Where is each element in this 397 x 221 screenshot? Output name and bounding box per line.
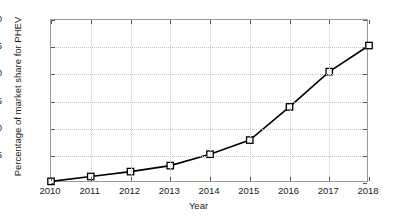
y-tick-mark — [51, 102, 55, 103]
x-tick-label: 2014 — [189, 186, 229, 196]
x-tick-mark — [131, 177, 132, 181]
y-tick-mark — [51, 156, 55, 157]
x-tick-mark-top — [250, 20, 251, 24]
x-tick-mark-top — [210, 20, 211, 24]
data-point-marker — [247, 137, 253, 143]
chart-figure: 51015202530 2010201120122013201420152016… — [0, 0, 397, 221]
x-tick-label: 2015 — [229, 186, 269, 196]
x-tick-label: 2018 — [348, 186, 388, 196]
data-point-marker — [286, 104, 292, 110]
data-line — [51, 46, 369, 182]
y-tick-mark-right — [363, 102, 367, 103]
y-tick-label: 15 — [0, 96, 2, 106]
x-tick-label: 2010 — [30, 186, 70, 196]
x-tick-mark — [51, 177, 52, 181]
x-tick-mark-top — [91, 20, 92, 24]
y-axis-title: Percentage of market share for PHEV — [12, 7, 23, 187]
y-tick-mark-right — [363, 47, 367, 48]
x-tick-label: 2011 — [70, 186, 110, 196]
y-tick-mark — [51, 47, 55, 48]
data-point-marker — [326, 68, 332, 74]
y-tick-mark — [51, 74, 55, 75]
x-tick-mark — [290, 177, 291, 181]
y-tick-label: 25 — [0, 41, 2, 51]
y-tick-label: 20 — [0, 68, 2, 78]
x-tick-mark — [170, 177, 171, 181]
x-tick-mark-top — [290, 20, 291, 24]
y-tick-mark-right — [363, 20, 367, 21]
x-tick-mark — [91, 177, 92, 181]
x-tick-mark — [329, 177, 330, 181]
data-point-marker — [127, 168, 133, 174]
data-point-marker — [167, 162, 173, 168]
x-tick-label: 2013 — [149, 186, 189, 196]
x-tick-mark-top — [329, 20, 330, 24]
y-tick-mark-right — [363, 74, 367, 75]
x-tick-mark-top — [369, 20, 370, 24]
x-tick-mark-top — [170, 20, 171, 24]
x-tick-label: 2016 — [269, 186, 309, 196]
y-tick-label: 5 — [0, 150, 2, 160]
y-tick-mark-right — [363, 183, 367, 184]
x-tick-mark — [369, 177, 370, 181]
y-tick-mark-right — [363, 129, 367, 130]
x-tick-mark-top — [131, 20, 132, 24]
x-tick-label: 2017 — [308, 186, 348, 196]
y-tick-label: 30 — [0, 14, 2, 24]
x-tick-label: 2012 — [110, 186, 150, 196]
x-tick-mark-top — [51, 20, 52, 24]
y-tick-mark — [51, 129, 55, 130]
series-layer — [51, 20, 369, 183]
plot-area — [50, 19, 368, 182]
x-axis-title: Year — [0, 200, 397, 211]
y-tick-mark-right — [363, 156, 367, 157]
x-tick-mark — [210, 177, 211, 181]
data-point-marker — [207, 151, 213, 157]
y-tick-mark — [51, 183, 55, 184]
y-tick-label: 10 — [0, 123, 2, 133]
x-tick-mark — [250, 177, 251, 181]
